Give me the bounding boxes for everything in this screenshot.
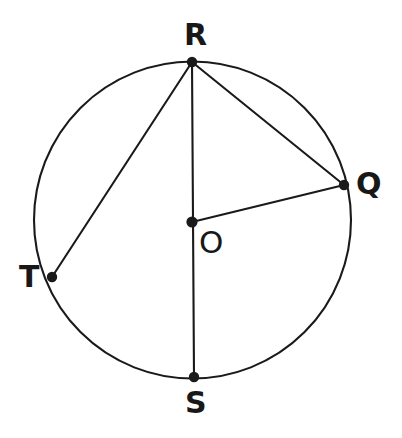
point-dot-t <box>47 272 57 282</box>
point-label-r: R <box>184 20 207 50</box>
point-dot-o-center <box>186 216 197 227</box>
segment-RT <box>52 62 192 277</box>
point-dot-s <box>189 372 199 382</box>
point-dot-r <box>187 57 197 67</box>
point-label-s: S <box>185 388 207 418</box>
point-label-t: T <box>19 262 39 292</box>
circle-geometry-figure: R Q T S O <box>0 0 402 438</box>
point-dot-q <box>339 180 349 190</box>
point-label-q: Q <box>356 169 382 199</box>
point-label-o-center: O <box>199 227 223 258</box>
segment-OQ <box>192 185 344 222</box>
geometry-canvas <box>0 0 402 438</box>
